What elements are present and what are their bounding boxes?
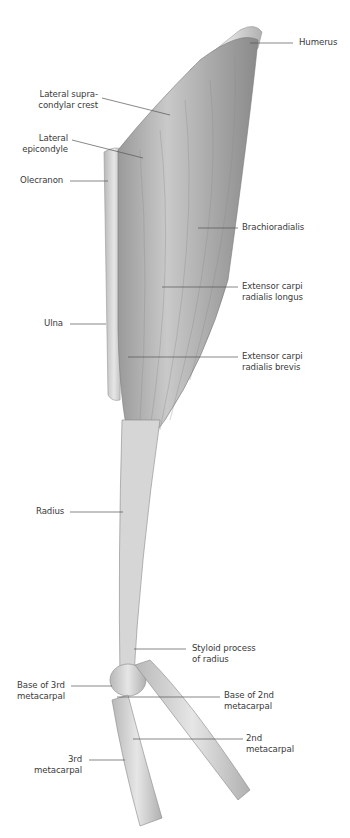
label-extensor-carpi-radialis-longus: Extensor carpi radialis longus	[242, 281, 303, 303]
label-base-of-3rd-metacarpal: Base of 3rd metacarpal	[17, 680, 65, 702]
label-base-of-2nd-metacarpal: Base of 2nd metacarpal	[224, 690, 274, 712]
tendons	[119, 420, 160, 690]
label-3rd-metacarpal: 3rd metacarpal	[30, 754, 82, 776]
anatomy-illustration	[0, 0, 350, 838]
label-brachioradialis: Brachioradialis	[242, 222, 304, 233]
label-radius: Radius	[36, 506, 64, 517]
label-2nd-metacarpal: 2nd metacarpal	[246, 733, 294, 755]
label-lateral-epicondyle: Lateral epicondyle	[16, 133, 68, 155]
label-lateral-supracondylar-crest: Lateral supra- condylar crest	[34, 89, 98, 111]
third-metacarpal-bone	[112, 695, 162, 826]
label-styloid-process-of-radius: Styloid process of radius	[192, 643, 256, 665]
label-extensor-carpi-radialis-brevis: Extensor carpi radialis brevis	[242, 351, 303, 373]
second-metacarpal-bone	[135, 660, 250, 800]
label-ulna: Ulna	[44, 318, 63, 329]
muscle-belly	[118, 38, 258, 461]
label-olecranon: Olecranon	[20, 175, 63, 186]
label-humerus: Humerus	[299, 37, 337, 48]
